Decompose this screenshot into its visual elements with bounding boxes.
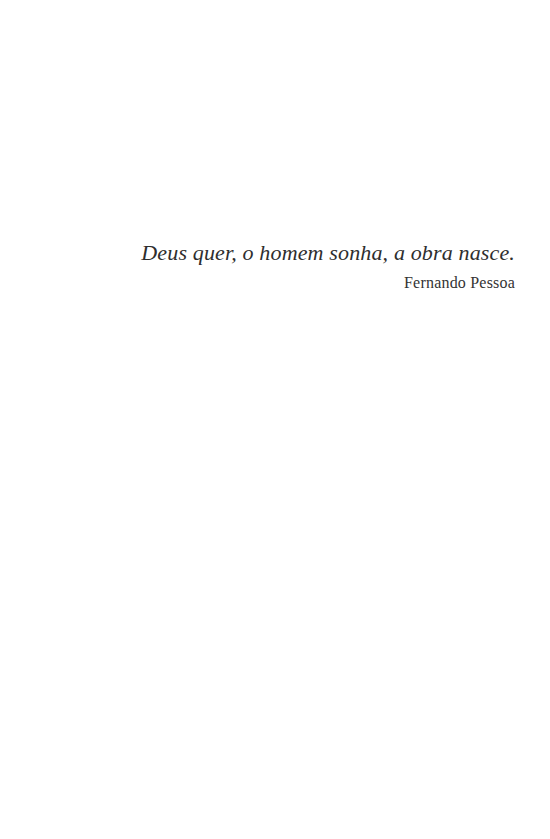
epigraph-quote-text: Deus quer, o homem sonha, a obra nasce.: [36, 240, 515, 266]
epigraph-attribution-text: Fernando Pessoa: [36, 273, 515, 292]
epigraph-block: Deus quer, o homem sonha, a obra nasce. …: [36, 240, 515, 292]
book-epigraph-page: Deus quer, o homem sonha, a obra nasce. …: [0, 0, 550, 839]
